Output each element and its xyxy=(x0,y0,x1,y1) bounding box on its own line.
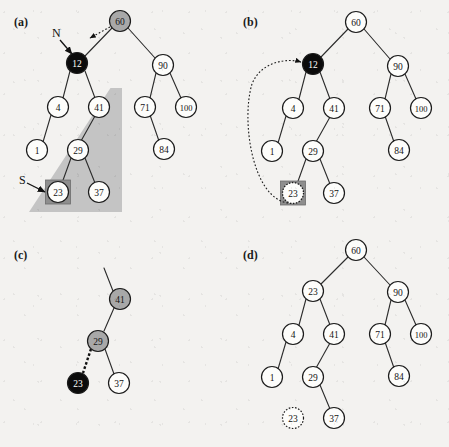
node-71: 71 xyxy=(370,98,391,119)
node-label: 41 xyxy=(329,330,339,340)
node-1: 1 xyxy=(27,140,48,161)
node-label: 60 xyxy=(351,18,361,28)
panel-label-c: (c) xyxy=(14,248,27,262)
node-label: 60 xyxy=(351,246,361,256)
panel-c: 41 29 23 37 (c) xyxy=(14,248,131,394)
pointer-label-n: N xyxy=(52,26,61,40)
node-29: 29 xyxy=(303,367,324,388)
node-label: 71 xyxy=(375,330,385,340)
node-84: 84 xyxy=(154,139,175,160)
edge-23-41 xyxy=(320,299,330,325)
panel-label-b: (b) xyxy=(243,15,258,29)
node-41: 41 xyxy=(324,324,345,345)
node-71: 71 xyxy=(135,97,156,118)
node-label: 29 xyxy=(308,373,318,383)
edge-12-41 xyxy=(320,72,330,99)
node-90: 90 xyxy=(153,55,174,76)
node-label: 100 xyxy=(415,104,428,114)
edge-71-84 xyxy=(150,115,159,141)
panel-d-nodes: 60 23 90 4 41 xyxy=(262,240,432,429)
edge-12-41 xyxy=(85,71,95,98)
node-23: 23 xyxy=(283,183,304,204)
edge-90-100 xyxy=(405,74,416,99)
edge-60-12 xyxy=(321,29,348,57)
figure-canvas: 60 12 90 4 41 xyxy=(0,0,449,447)
detach-edge-29-23 xyxy=(83,349,91,373)
panel-label-a: (a) xyxy=(14,15,28,29)
edge-60-90 xyxy=(128,28,155,58)
node-1: 1 xyxy=(262,141,283,162)
pointer-arrow-s xyxy=(27,183,45,192)
edge-71-84 xyxy=(385,116,394,142)
edge-41-29 xyxy=(104,308,114,331)
node-4: 4 xyxy=(283,324,304,345)
edge-12-4 xyxy=(63,71,70,98)
edge-60-12 xyxy=(85,28,112,56)
node-label: 1 xyxy=(270,373,275,383)
node-label: 4 xyxy=(291,104,296,114)
node-100: 100 xyxy=(411,98,432,119)
edge-90-100 xyxy=(405,300,416,325)
node-29: 29 xyxy=(303,141,324,162)
node-label: 71 xyxy=(140,103,150,113)
pointer-arrow-n xyxy=(60,40,72,54)
node-37: 37 xyxy=(324,408,345,429)
node-90: 90 xyxy=(388,56,409,77)
node-23-root-child: 23 xyxy=(303,281,324,302)
node-41: 41 xyxy=(89,97,110,118)
panel-d: 60 23 90 4 41 xyxy=(243,240,432,429)
node-label: 90 xyxy=(158,61,168,71)
node-90: 90 xyxy=(388,282,409,303)
node-29: 29 xyxy=(88,331,109,352)
edge-4-1 xyxy=(43,115,51,142)
pointer-label-s: S xyxy=(19,173,26,187)
edge-29-37 xyxy=(105,349,114,374)
edge-4-1 xyxy=(278,116,286,143)
node-23-removed: 23 xyxy=(283,408,304,429)
edge-90-71 xyxy=(385,74,391,99)
node-label: 100 xyxy=(180,103,193,113)
edge-90-100 xyxy=(170,73,181,98)
edge-23-4 xyxy=(299,299,306,325)
node-label: 37 xyxy=(114,379,124,389)
node-60: 60 xyxy=(110,11,131,32)
panel-label-d: (d) xyxy=(243,248,258,262)
edge-29-37 xyxy=(320,159,330,184)
node-71: 71 xyxy=(370,324,391,345)
node-label: 90 xyxy=(393,62,403,72)
node-label: 84 xyxy=(394,372,404,382)
node-37: 37 xyxy=(109,373,130,394)
node-label: 23 xyxy=(308,287,318,297)
panel-a: 60 12 90 4 41 xyxy=(14,11,197,213)
node-label: 29 xyxy=(73,146,83,156)
node-label: 37 xyxy=(329,189,339,199)
node-84: 84 xyxy=(389,140,410,161)
node-84: 84 xyxy=(389,366,410,387)
panel-c-edges xyxy=(104,268,114,374)
node-label: 84 xyxy=(394,146,404,156)
node-37: 37 xyxy=(324,183,345,204)
node-41: 41 xyxy=(324,98,345,119)
node-label: 4 xyxy=(291,330,296,340)
node-label: 29 xyxy=(308,147,318,157)
panel-b-nodes: 60 12 90 4 41 xyxy=(262,12,432,204)
node-label: 100 xyxy=(415,330,428,340)
node-label: 41 xyxy=(115,295,125,305)
edge-60-23 xyxy=(321,257,348,284)
node-label: 41 xyxy=(329,104,339,114)
node-label: 23 xyxy=(288,189,298,199)
panel-c-nodes: 41 29 23 37 xyxy=(68,289,131,394)
edge-29-37 xyxy=(320,385,330,409)
bst-deletion-figure: 60 12 90 4 41 xyxy=(0,0,449,447)
node-label: 41 xyxy=(94,103,104,113)
node-41: 41 xyxy=(110,289,131,310)
node-60: 60 xyxy=(346,240,367,261)
node-4: 4 xyxy=(283,98,304,119)
edge-60-90 xyxy=(364,29,390,59)
node-100: 100 xyxy=(176,97,197,118)
node-23: 23 xyxy=(68,373,89,394)
node-29: 29 xyxy=(68,140,89,161)
node-label: 23 xyxy=(53,188,63,198)
node-12: 12 xyxy=(303,54,324,75)
edge-12-4 xyxy=(299,72,306,99)
